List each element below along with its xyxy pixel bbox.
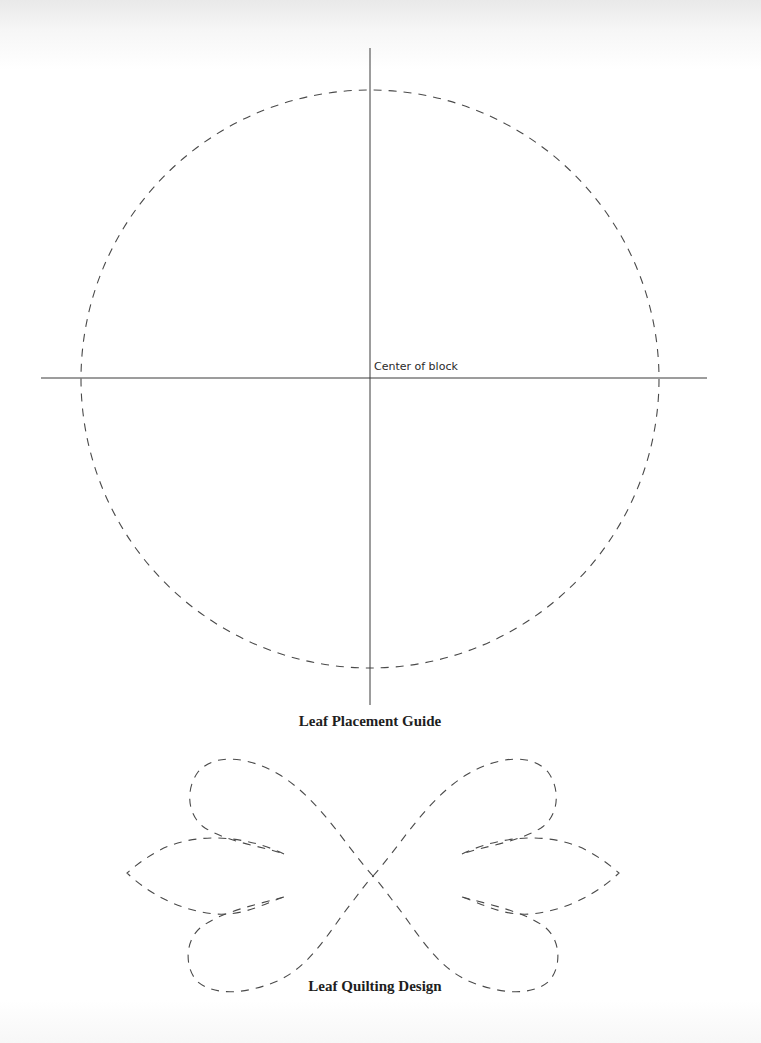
pattern-drawing [0,0,761,1043]
leaf-placement-guide [41,48,707,705]
left-upper-loop [190,759,373,876]
leaf-placement-guide-caption: Leaf Placement Guide [270,713,470,730]
right-upper-loop [373,759,556,876]
left-leaf-group [127,759,373,992]
right-lower-loop [373,876,558,992]
left-pointed-leaf [127,838,284,914]
right-leaf-group [373,759,619,992]
leaf-quilting-design-caption: Leaf Quilting Design [275,978,475,995]
center-of-block-label: Center of block [374,360,458,373]
right-pointed-leaf [462,838,619,914]
document-page: Center of block Leaf Placement Guide Lea… [0,0,761,1043]
left-lower-loop [188,876,373,992]
leaf-quilting-design [127,759,619,992]
